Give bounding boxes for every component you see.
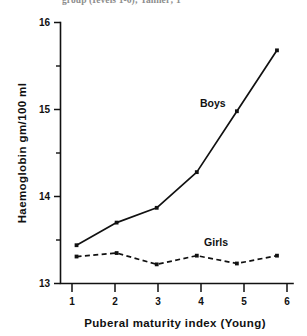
- data-series-layer: [75, 48, 279, 266]
- data-point-boys-1: [75, 243, 79, 247]
- x-tick-label-6: 6: [284, 296, 290, 307]
- series-label-layer: BoysGirls: [200, 97, 228, 248]
- x-axis-title: Puberal maturity index (Young): [84, 317, 266, 329]
- x-tick-label-3: 3: [155, 296, 161, 307]
- x-tick-label-4: 4: [198, 296, 204, 307]
- data-point-girls-2: [115, 251, 119, 255]
- series-label-girls: Girls: [204, 236, 228, 248]
- data-point-boys-2: [115, 221, 119, 225]
- x-tick-labels: 1 2 3 4 5 6: [69, 296, 290, 307]
- figure-container: group (Ievels 1-6); Tanner; 1 16 15 14 1…: [0, 0, 307, 336]
- data-point-girls-3: [155, 262, 159, 266]
- x-tick-label-2: 2: [112, 296, 118, 307]
- series-line-boys: [77, 50, 277, 245]
- x-tick-label-1: 1: [69, 296, 75, 307]
- axes-group: [61, 23, 294, 284]
- data-point-girls-4: [195, 254, 199, 258]
- series-boys: [75, 48, 279, 247]
- y-tick-label-13: 13: [39, 278, 51, 289]
- y-tick-label-16: 16: [39, 17, 51, 28]
- series-label-boys: Boys: [200, 97, 226, 109]
- data-point-boys-3: [155, 206, 159, 210]
- data-point-boys-4: [195, 170, 199, 174]
- data-point-girls-5: [235, 262, 239, 266]
- series-line-girls: [77, 253, 277, 264]
- x-ticks: [72, 284, 287, 293]
- series-girls: [75, 251, 279, 266]
- data-point-girls-6: [275, 254, 279, 258]
- y-axis-title: Haemoglobin gm/100 ml: [16, 83, 28, 224]
- data-point-girls-1: [75, 255, 79, 259]
- data-point-boys-5: [235, 109, 239, 113]
- haemoglobin-vs-puberal-maturity-chart: 16 15 14 13 1 2 3 4 5 6 Puberal maturity…: [0, 0, 307, 336]
- x-tick-label-5: 5: [241, 296, 247, 307]
- y-tick-labels: 16 15 14 13: [39, 17, 51, 289]
- y-tick-label-14: 14: [39, 191, 51, 202]
- data-point-boys-6: [275, 48, 279, 52]
- y-tick-label-15: 15: [39, 104, 51, 115]
- axis-lines: [61, 23, 294, 284]
